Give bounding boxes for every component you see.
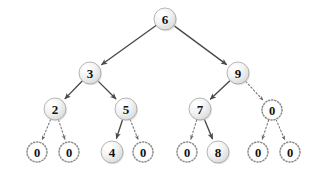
tree-node-null[interactable]: 0 <box>280 142 301 163</box>
node-circle <box>207 141 229 163</box>
node-circle <box>280 142 300 162</box>
tree-node-null[interactable]: 0 <box>262 100 283 121</box>
tree-node[interactable]: 5 <box>115 98 138 121</box>
tree-node[interactable]: 8 <box>207 141 230 164</box>
edge-layer <box>42 26 284 140</box>
tree-edge <box>204 120 212 139</box>
tree-edge <box>42 120 50 140</box>
tree-node[interactable]: 6 <box>154 8 177 31</box>
tree-node-null[interactable]: 0 <box>27 142 48 163</box>
tree-node[interactable]: 9 <box>227 62 250 85</box>
node-highlight <box>192 101 201 108</box>
tree-node-null[interactable]: 0 <box>59 142 80 163</box>
tree-edge <box>276 120 285 140</box>
node-layer: 639257000400800 <box>27 8 301 164</box>
node-highlight <box>47 101 56 108</box>
node-circle <box>44 98 66 120</box>
tree-edge <box>191 120 197 139</box>
tree-edge <box>246 81 263 100</box>
tree-edge <box>65 81 82 98</box>
node-circle <box>79 62 101 84</box>
tree-edge <box>98 81 116 99</box>
tree-node-null[interactable]: 0 <box>177 142 198 163</box>
node-circle <box>262 100 282 120</box>
node-circle <box>59 142 79 162</box>
node-circle <box>154 8 176 30</box>
tree-node[interactable]: 4 <box>101 141 124 164</box>
tree-node[interactable]: 2 <box>44 98 67 121</box>
node-highlight <box>104 144 113 151</box>
tree-edge <box>116 120 122 138</box>
tree-edge <box>102 26 156 65</box>
node-circle <box>101 141 123 163</box>
node-circle <box>133 142 153 162</box>
tree-edge <box>211 81 230 99</box>
node-highlight <box>210 144 219 151</box>
tree-node[interactable]: 7 <box>189 98 212 121</box>
tree-edge <box>59 120 65 139</box>
node-circle <box>115 98 137 120</box>
tree-edge <box>174 26 226 65</box>
node-circle <box>27 142 47 162</box>
node-circle <box>227 62 249 84</box>
tree-node-null[interactable]: 0 <box>133 142 154 163</box>
node-highlight <box>230 65 239 72</box>
node-circle <box>248 142 268 162</box>
tree-canvas: 639257000400800 <box>0 0 320 175</box>
tree-node-null[interactable]: 0 <box>248 142 269 163</box>
node-circle <box>177 142 197 162</box>
tree-edge <box>130 120 138 140</box>
node-circle <box>189 98 211 120</box>
node-highlight <box>157 11 166 18</box>
node-highlight <box>118 101 127 108</box>
tree-edge <box>262 120 268 139</box>
binary-tree-diagram: 639257000400800 <box>0 0 320 175</box>
node-highlight <box>82 65 91 72</box>
